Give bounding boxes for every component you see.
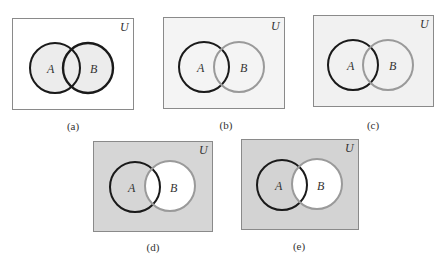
set-a-label: A xyxy=(346,59,355,73)
venn-panel-b: A B U (b) xyxy=(163,17,285,109)
set-b-label: B xyxy=(240,61,248,75)
universe-box xyxy=(314,16,434,107)
panel-caption: (e) xyxy=(279,240,319,252)
venn-diagram-a: A B U xyxy=(12,18,134,110)
venn-diagram-b: A B U xyxy=(163,17,285,109)
set-a-label: A xyxy=(196,61,205,75)
universe-label: U xyxy=(199,143,209,157)
panel-caption: (c) xyxy=(353,119,393,131)
venn-panel-a: A B U (a) xyxy=(12,18,134,110)
venn-diagram-e: A B U xyxy=(241,139,359,230)
panel-caption: (d) xyxy=(133,241,173,253)
universe-label: U xyxy=(420,17,430,31)
universe-box xyxy=(164,18,285,109)
venn-panel-e: A B U (e) xyxy=(241,139,359,230)
set-a-label: A xyxy=(127,181,136,195)
universe-label: U xyxy=(345,141,355,155)
universe-label: U xyxy=(120,20,130,34)
set-b-label: B xyxy=(90,62,98,76)
venn-panel-d: A B U (d) xyxy=(93,141,213,232)
venn-diagram-d: A B U xyxy=(93,141,213,232)
venn-diagram-c: A B U xyxy=(313,15,434,107)
set-a-label: A xyxy=(46,62,55,76)
set-b-label: B xyxy=(170,181,178,195)
set-b-label: B xyxy=(389,59,397,73)
set-b-label: B xyxy=(317,179,325,193)
universe-label: U xyxy=(271,19,281,33)
set-a-label: A xyxy=(274,179,283,193)
panel-caption: (b) xyxy=(206,119,246,131)
panel-caption: (a) xyxy=(53,120,93,132)
venn-panel-c: A B U (c) xyxy=(313,15,434,107)
